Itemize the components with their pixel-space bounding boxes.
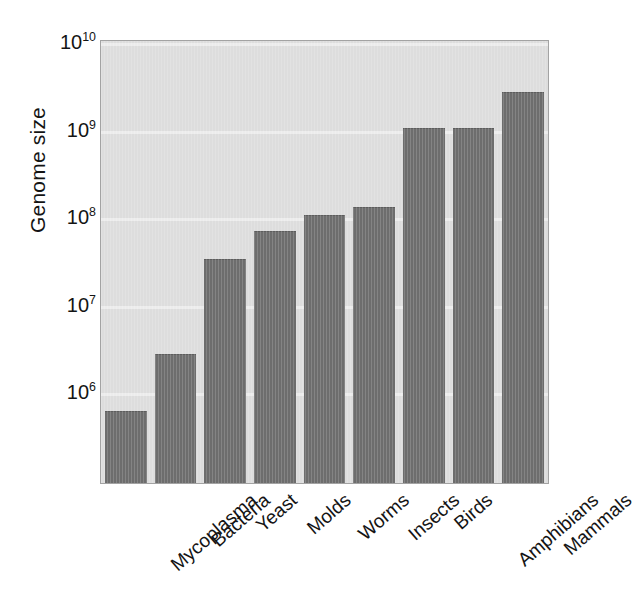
bar-slot xyxy=(250,41,300,483)
bar-bacteria[interactable] xyxy=(155,354,197,483)
y-tick-label-10: 1010 xyxy=(36,32,96,52)
bar-slot xyxy=(349,41,399,483)
bar-slot xyxy=(399,41,449,483)
bar-slot xyxy=(200,41,250,483)
y-tick-mantissa: 10 xyxy=(67,119,89,141)
plot-area xyxy=(100,40,549,484)
y-tick-exponent: 10 xyxy=(82,30,96,44)
bar-slot xyxy=(498,41,548,483)
bar-insects[interactable] xyxy=(353,207,395,483)
bar-series xyxy=(101,41,548,483)
y-tick-label-6: 106 xyxy=(36,382,96,402)
x-axis-tick-labels: MycoplasmaBacteriaYeastMoldsWormsInsects… xyxy=(100,484,549,599)
y-tick-label-7: 107 xyxy=(36,295,96,315)
y-tick-mantissa: 10 xyxy=(67,381,89,403)
y-tick-exponent: 8 xyxy=(89,205,96,219)
y-tick-exponent: 6 xyxy=(89,380,96,394)
bar-slot xyxy=(101,41,151,483)
bar-birds[interactable] xyxy=(403,128,445,483)
bar-yeast[interactable] xyxy=(204,259,246,483)
bar-slot xyxy=(449,41,499,483)
bar-mammals[interactable] xyxy=(502,92,544,483)
y-tick-mantissa: 10 xyxy=(67,206,89,228)
y-tick-label-8: 108 xyxy=(36,207,96,227)
y-tick-mantissa: 10 xyxy=(67,294,89,316)
bar-slot xyxy=(151,41,201,483)
y-axis-tick-labels: 1010109108107106 xyxy=(34,0,96,599)
bar-slot xyxy=(300,41,350,483)
x-tick-label-worms: Worms xyxy=(355,490,413,544)
x-tick-label-molds: Molds xyxy=(303,490,354,538)
y-tick-exponent: 9 xyxy=(89,118,96,132)
bar-amphibians[interactable] xyxy=(453,128,495,483)
bar-worms[interactable] xyxy=(304,215,346,483)
x-tick-label-birds: Birds xyxy=(451,490,496,533)
bar-molds[interactable] xyxy=(254,231,296,483)
y-tick-exponent: 7 xyxy=(89,293,96,307)
y-tick-mantissa: 10 xyxy=(60,31,82,53)
y-tick-label-9: 109 xyxy=(36,120,96,140)
bar-mycoplasma[interactable] xyxy=(105,411,147,483)
